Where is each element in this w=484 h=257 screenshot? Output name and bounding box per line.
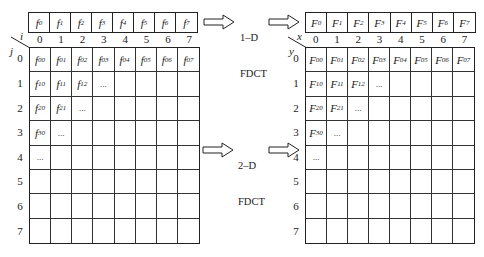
input-grid-cell: f01	[51, 48, 72, 72]
output-2d-grid: F00F01F02F03F04F05F06F07F10F11F12...F20F…	[305, 47, 475, 244]
output-grid-cell: F07	[453, 48, 474, 72]
output-array-cell: F1	[327, 13, 348, 32]
input-grid-cell: f11	[51, 72, 72, 96]
output-grid-cell	[369, 219, 390, 243]
output-grid-cell	[306, 170, 327, 194]
input-grid-cell: ...	[93, 72, 114, 96]
input-grid-cell	[157, 72, 178, 96]
input-grid-cell: f07	[178, 48, 199, 72]
output-grid-cell	[348, 170, 369, 194]
output-grid-cell: F01	[327, 48, 348, 72]
input-grid-cell	[30, 170, 51, 194]
input-grid-cell	[157, 121, 178, 145]
output-grid-cell: F21	[327, 97, 348, 121]
output-grid-cell: F03	[369, 48, 390, 72]
input-grid-cell	[136, 97, 157, 121]
output-array-cell: F2	[348, 13, 369, 32]
output-grid-cell	[411, 219, 432, 243]
input-grid-cell	[30, 219, 51, 243]
input-array-cell: f5	[134, 13, 155, 32]
input-grid-cell	[157, 219, 178, 243]
output-grid-cell	[348, 219, 369, 243]
input-grid-cell: f05	[136, 48, 157, 72]
output-grid-col-header: 3	[369, 33, 390, 45]
input-grid-col-header: 7	[179, 33, 200, 45]
input-grid-cell: f04	[115, 48, 136, 72]
output-grid-cell	[369, 170, 390, 194]
output-grid-cell	[390, 121, 411, 145]
output-grid-cell: ...	[306, 146, 327, 170]
output-grid-cell	[453, 194, 474, 218]
output-grid-cell	[453, 97, 474, 121]
row-axis-label-left: j	[10, 45, 13, 57]
output-array-cell: F5	[412, 13, 433, 32]
output-grid-cell	[327, 170, 348, 194]
input-array-cell: f0	[29, 13, 50, 32]
output-grid-cell	[432, 194, 453, 218]
input-grid-cell	[72, 219, 93, 243]
output-grid-cell	[390, 194, 411, 218]
input-grid-cell	[72, 146, 93, 170]
input-grid-cell	[93, 97, 114, 121]
input-grid-col-header: 4	[115, 33, 136, 45]
transform-2d-line2: FDCT	[238, 196, 265, 208]
input-array-cell: f2	[71, 13, 92, 32]
output-grid-cell: F06	[432, 48, 453, 72]
output-grid-col-header: 4	[390, 33, 411, 45]
input-grid-cell	[136, 219, 157, 243]
output-grid-cell	[432, 97, 453, 121]
input-grid-cell	[115, 170, 136, 194]
output-grid-cell	[411, 97, 432, 121]
output-grid-row-header: 1	[291, 77, 301, 89]
output-grid-cell: F11	[327, 72, 348, 96]
input-grid-cell	[115, 72, 136, 96]
input-grid-col-header: 1	[50, 33, 71, 45]
transform-1d-line1: 1–D	[240, 32, 267, 44]
output-grid-cell	[453, 121, 474, 145]
output-grid-cell	[453, 219, 474, 243]
input-grid-cell: ...	[72, 97, 93, 121]
input-array-cell: f7	[176, 13, 197, 32]
output-grid-cell	[411, 170, 432, 194]
input-grid-row-header: 4	[15, 151, 25, 163]
input-grid-cell	[136, 146, 157, 170]
output-grid-cell	[327, 194, 348, 218]
output-grid-row-header: 6	[291, 200, 301, 212]
input-grid-row-header: 5	[15, 175, 25, 187]
transform-2d-line1: 2–D	[238, 160, 265, 172]
input-grid-cell	[115, 194, 136, 218]
input-grid-cell: f20	[30, 97, 51, 121]
output-grid-cell	[432, 72, 453, 96]
input-grid-row-header: 6	[15, 200, 25, 212]
input-grid-col-header: 2	[72, 33, 93, 45]
input-grid-cell	[136, 121, 157, 145]
input-grid-cell: f02	[72, 48, 93, 72]
output-grid-col-header: 5	[411, 33, 432, 45]
input-grid-cell	[93, 170, 114, 194]
input-1d-array: f0f1f2f3f4f5f6f7	[28, 12, 198, 33]
output-array-cell: F6	[433, 13, 454, 32]
input-array-cell: f3	[92, 13, 113, 32]
input-grid-cell: f12	[72, 72, 93, 96]
output-grid-cell	[369, 97, 390, 121]
transform-1d-label: 1–D FDCT	[240, 8, 267, 92]
output-grid-cell: F00	[306, 48, 327, 72]
output-grid-cell	[369, 146, 390, 170]
output-grid-col-header: 2	[348, 33, 369, 45]
col-axis-label-right: x	[297, 30, 302, 42]
output-grid-cell: F10	[306, 72, 327, 96]
output-grid-cell	[369, 194, 390, 218]
output-grid-cell	[432, 170, 453, 194]
output-grid-cell: ...	[348, 97, 369, 121]
input-grid-cell	[93, 194, 114, 218]
input-grid-cell	[51, 194, 72, 218]
output-grid-cell	[369, 121, 390, 145]
input-grid-cell: f03	[93, 48, 114, 72]
input-grid-cell	[51, 146, 72, 170]
input-grid-cell	[157, 170, 178, 194]
output-grid-row-header: 0	[291, 52, 301, 64]
input-grid-col-header: 0	[29, 33, 50, 45]
input-grid-cell	[136, 194, 157, 218]
input-grid-cell	[178, 97, 199, 121]
output-grid-cell	[432, 219, 453, 243]
